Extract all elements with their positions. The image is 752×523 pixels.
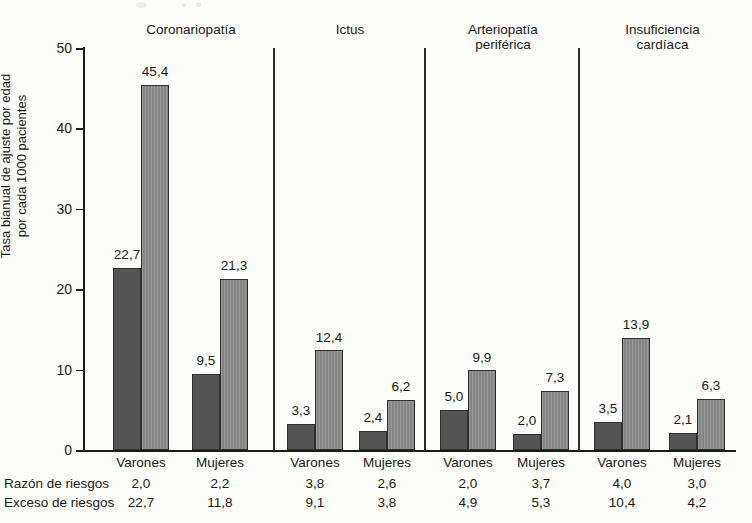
table-cell-excess-3: 3,8 [347, 495, 427, 510]
x-axis-line [83, 450, 736, 452]
bar-label-light-7: 6,3 [681, 378, 741, 393]
x-label-mujeres-2: Mujeres [347, 455, 427, 470]
x-label-mujeres-3: Mujeres [501, 455, 581, 470]
table-row-header-razon-de-riesgos: Razón de riesgos [4, 476, 109, 491]
bar-dark-4 [440, 410, 468, 450]
x-label-mujeres-1: Mujeres [180, 455, 260, 470]
bar-light-0 [141, 85, 169, 450]
bar-light-7 [697, 399, 725, 450]
table-cell-ratio-0: 2,0 [101, 476, 181, 491]
bar-dark-2 [287, 424, 315, 451]
table-cell-ratio-1: 2,2 [180, 476, 260, 491]
bar-label-light-0: 45,4 [125, 64, 185, 79]
bar-light-3 [387, 400, 415, 450]
bar-label-light-6: 13,9 [606, 317, 666, 332]
bar-label-light-5: 7,3 [525, 370, 585, 385]
bar-label-light-4: 9,9 [452, 350, 512, 365]
bar-light-1 [220, 279, 248, 450]
chart-figure: Coronariopatía Ictus Arteriopatía perifé… [0, 0, 752, 523]
bar-label-light-3: 6,2 [371, 379, 431, 394]
table-cell-excess-4: 4,9 [428, 495, 508, 510]
bar-dark-3 [359, 431, 387, 450]
bar-dark-0 [113, 268, 141, 451]
bar-light-5 [541, 391, 569, 450]
bar-dark-1 [192, 374, 220, 450]
table-cell-ratio-3: 2,6 [347, 476, 427, 491]
bar-light-4 [468, 370, 496, 450]
bar-light-2 [315, 350, 343, 450]
table-cell-excess-6: 10,4 [582, 495, 662, 510]
x-label-varones-4: Varones [582, 455, 662, 470]
x-label-varones-1: Varones [101, 455, 181, 470]
table-cell-excess-0: 22,7 [101, 495, 181, 510]
table-cell-excess-2: 9,1 [275, 495, 355, 510]
bar-light-6 [622, 338, 650, 450]
table-cell-ratio-5: 3,7 [501, 476, 581, 491]
table-cell-ratio-6: 4,0 [582, 476, 662, 491]
bar-label-light-1: 21,3 [204, 258, 264, 273]
table-row-header-exceso-de-riesgos: Exceso de riesgos [4, 495, 114, 510]
x-label-mujeres-4: Mujeres [657, 455, 737, 470]
table-cell-ratio-4: 2,0 [428, 476, 508, 491]
bar-dark-6 [594, 422, 622, 450]
bar-label-light-2: 12,4 [299, 330, 359, 345]
x-label-varones-3: Varones [428, 455, 508, 470]
bar-dark-7 [669, 433, 697, 450]
table-cell-excess-1: 11,8 [180, 495, 260, 510]
table-cell-ratio-2: 3,8 [275, 476, 355, 491]
table-cell-excess-7: 4,2 [657, 495, 737, 510]
y-tick-0 [76, 450, 84, 452]
bar-group-container: 22,7 45,4 9,5 21,3 3,3 12,4 2,4 6,2 5,0 … [0, 0, 752, 450]
x-label-varones-2: Varones [275, 455, 355, 470]
table-cell-excess-5: 5,3 [501, 495, 581, 510]
table-cell-ratio-7: 3,0 [657, 476, 737, 491]
bar-dark-5 [513, 434, 541, 450]
